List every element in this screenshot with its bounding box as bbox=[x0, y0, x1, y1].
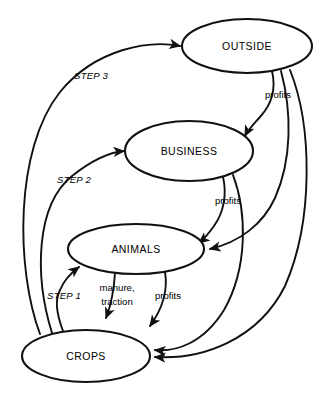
node-crops-label: CROPS bbox=[66, 350, 106, 362]
node-animals[interactable]: ANIMALS bbox=[68, 224, 204, 274]
edge-outside-to-crops bbox=[155, 70, 307, 357]
edge-label-step-1: STEP 1 bbox=[47, 290, 81, 301]
node-business[interactable]: BUSINESS bbox=[125, 121, 253, 181]
node-business-label: BUSINESS bbox=[161, 145, 218, 157]
node-crops[interactable]: CROPS bbox=[22, 330, 150, 382]
node-outside-label: OUTSIDE bbox=[222, 40, 272, 52]
edge-label-profits-business-animals: profits bbox=[215, 195, 241, 206]
edge-label-profits-outside-business: profits bbox=[265, 89, 291, 100]
diagram-canvas: OUTSIDE BUSINESS ANIMALS CROPS STEP 3 ST… bbox=[0, 0, 327, 397]
node-animals-label: ANIMALS bbox=[111, 243, 160, 255]
edge-label-profits-animals-crops: profits bbox=[155, 290, 181, 301]
edge-label-manure-line-1: manure, bbox=[99, 282, 134, 293]
edge-business-to-animals bbox=[199, 177, 225, 243]
node-outside[interactable]: OUTSIDE bbox=[182, 19, 312, 73]
edge-label-step-2: STEP 2 bbox=[57, 174, 91, 185]
edge-label-manure-line-2: traction bbox=[101, 296, 132, 307]
edge-outside-to-business bbox=[245, 71, 274, 136]
flow-diagram-svg: OUTSIDE BUSINESS ANIMALS CROPS STEP 3 ST… bbox=[0, 0, 327, 397]
edge-label-step-3: STEP 3 bbox=[74, 70, 108, 81]
